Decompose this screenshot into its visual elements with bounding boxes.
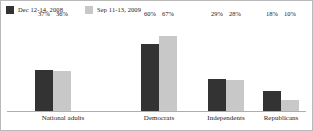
axis-baseline <box>7 111 306 112</box>
category-label: National adults <box>25 114 101 123</box>
bar-value-label: 10% <box>284 10 296 18</box>
bar-item[interactable]: 37% <box>35 19 53 111</box>
bar-item[interactable]: 10% <box>281 19 299 111</box>
bar-item[interactable]: 18% <box>263 19 281 111</box>
bar-value-label: 36% <box>56 10 68 18</box>
bar-item[interactable]: 36% <box>53 19 71 111</box>
bar-group-bars: 37%36% <box>35 19 71 111</box>
bar-value-label: 37% <box>38 10 50 18</box>
legend-swatch-dec-2008 <box>6 6 14 14</box>
bar-rect[interactable] <box>35 70 53 111</box>
bar-value-label: 18% <box>266 10 278 18</box>
bar-item[interactable]: 67% <box>159 19 177 111</box>
bar-group-bars: 60%67% <box>141 19 177 111</box>
bar-rect[interactable] <box>208 79 226 111</box>
bar-value-label: 60% <box>144 10 156 18</box>
bar-value-label: 67% <box>162 10 174 18</box>
bar-rect[interactable] <box>281 100 299 111</box>
legend-swatch-sep-2009 <box>85 6 93 14</box>
legend-item-dec-2008: Dec 12-14, 2008 <box>6 6 63 14</box>
bar-chart-card: Dec 12-14, 2008 Sep 11-13, 2009 37%36%60… <box>0 0 313 131</box>
bar-group-bars: 18%10% <box>263 19 299 111</box>
bar-rect[interactable] <box>141 44 159 111</box>
category-label: Independents <box>195 114 257 123</box>
legend-label-sep-2009: Sep 11-13, 2009 <box>97 6 141 14</box>
bar-value-label: 29% <box>211 10 223 18</box>
plot-area: 37%36%60%67%29%28%18%10% <box>1 19 312 112</box>
chart-legend: Dec 12-14, 2008 Sep 11-13, 2009 <box>6 4 141 16</box>
bar-item[interactable]: 28% <box>226 19 244 111</box>
legend-item-sep-2009: Sep 11-13, 2009 <box>85 6 141 14</box>
bar-rect[interactable] <box>53 71 71 111</box>
bar-item[interactable]: 29% <box>208 19 226 111</box>
category-label: Democrats <box>132 114 186 123</box>
bar-group-bars: 29%28% <box>208 19 244 111</box>
category-label: Republicans <box>251 114 311 123</box>
bar-value-label: 28% <box>229 10 241 18</box>
bar-rect[interactable] <box>159 36 177 111</box>
bar-rect[interactable] <box>263 91 281 111</box>
bar-rect[interactable] <box>226 80 244 111</box>
bar-item[interactable]: 60% <box>141 19 159 111</box>
